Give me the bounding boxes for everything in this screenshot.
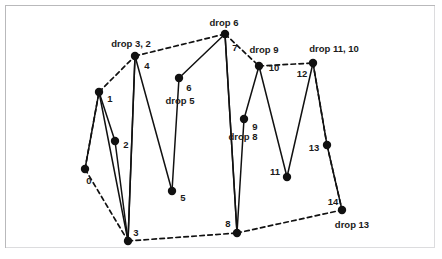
drop-annotation-label: drop 13	[335, 220, 369, 230]
drop-annotation-label: drop 5	[165, 96, 194, 106]
dashed-edge	[99, 56, 135, 92]
node-index-label: 3	[133, 228, 138, 238]
graph-node	[240, 115, 248, 123]
graph-node	[168, 187, 176, 195]
drop-annotation-label: drop 8	[228, 132, 257, 142]
solid-edge-layer	[85, 34, 342, 241]
drop-annotation-label: drop 3, 2	[111, 39, 151, 49]
graph-node	[111, 137, 119, 145]
graph-node	[338, 206, 346, 214]
drop-annotation-label: drop 9	[249, 45, 278, 55]
graph-node	[81, 165, 89, 173]
dashed-edge	[237, 210, 342, 233]
node-index-label: 12	[297, 69, 308, 79]
graph-node	[255, 62, 263, 70]
node-index-label: 11	[270, 167, 280, 177]
node-index-label: 10	[269, 63, 280, 73]
node-index-label: 4	[144, 61, 149, 71]
graph-canvas	[0, 0, 442, 259]
node-index-label: 8	[225, 219, 230, 229]
graph-node	[131, 52, 139, 60]
node-index-label: 2	[123, 140, 128, 150]
graph-node	[221, 30, 229, 38]
node-index-label: 7	[232, 43, 237, 53]
solid-edge	[179, 34, 225, 78]
solid-edge	[244, 66, 259, 119]
dashed-edge	[128, 233, 237, 241]
graph-node	[175, 74, 183, 82]
node-layer	[81, 30, 346, 245]
solid-edge	[128, 56, 135, 241]
node-index-label: 6	[186, 83, 191, 93]
dashed-edge	[259, 63, 313, 66]
node-index-label: 1	[107, 94, 112, 104]
solid-edge	[135, 56, 172, 191]
solid-edge	[115, 141, 128, 241]
solid-edge	[99, 92, 128, 241]
node-index-label: 0	[86, 176, 91, 186]
figure-container: 01234567891011121314drop 3, 2drop 6drop …	[0, 0, 442, 259]
graph-node	[95, 88, 103, 96]
solid-edge	[313, 63, 327, 145]
drop-annotation-label: drop 11, 10	[309, 44, 359, 54]
graph-node	[233, 229, 241, 237]
graph-node	[323, 141, 331, 149]
solid-edge	[85, 92, 99, 169]
drop-annotation-label: drop 6	[209, 18, 238, 28]
solid-edge	[259, 66, 287, 177]
node-index-label: 13	[309, 143, 320, 153]
solid-edge	[287, 63, 313, 177]
node-index-label: 14	[328, 197, 339, 207]
graph-node	[309, 59, 317, 67]
node-index-label: 5	[180, 193, 185, 203]
graph-node	[283, 173, 291, 181]
graph-node	[124, 237, 132, 245]
